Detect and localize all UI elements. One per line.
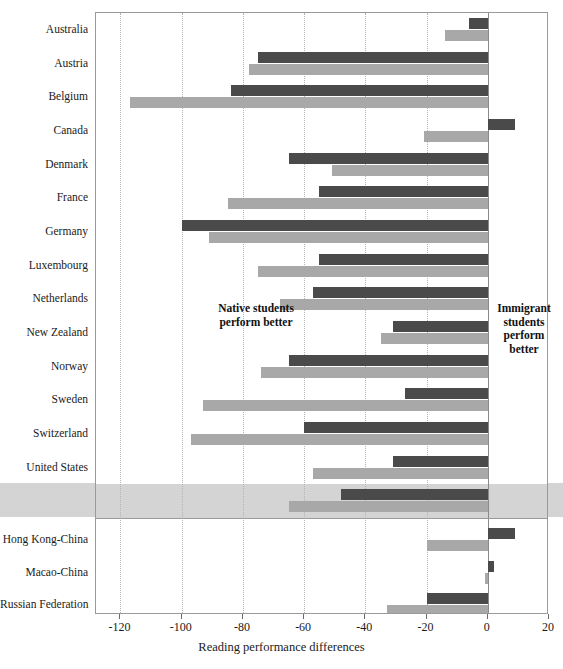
highlight-band-right bbox=[548, 483, 563, 517]
bar-canada-series-2 bbox=[424, 131, 488, 142]
x-tick--20 bbox=[426, 614, 427, 619]
x-tick--60 bbox=[303, 614, 304, 619]
bar-luxembourg-series-1 bbox=[319, 254, 487, 265]
category-label-netherlands: Netherlands bbox=[0, 292, 88, 304]
annotation-native-better: Native students perform better bbox=[186, 302, 326, 329]
x-axis-title: Reading performance differences bbox=[0, 640, 563, 655]
x-tick--80 bbox=[242, 614, 243, 619]
bar-oecd-average-series-1 bbox=[341, 489, 488, 500]
category-label-australia: Australia bbox=[0, 23, 88, 35]
bar-hong-kong-china-series-1 bbox=[488, 528, 516, 539]
category-label-united-states: United States bbox=[0, 461, 88, 473]
x-tick-label--40: -40 bbox=[334, 620, 394, 635]
bar-australia-series-1 bbox=[469, 18, 487, 29]
bar-germany-series-2 bbox=[209, 232, 488, 243]
reading-performance-chart: AustraliaAustriaBelgiumCanadaDenmarkFran… bbox=[0, 0, 563, 669]
gridline--120 bbox=[120, 13, 122, 613]
highlight-band-left bbox=[0, 483, 95, 517]
x-tick-20 bbox=[548, 614, 549, 619]
category-label-germany: Germany bbox=[0, 225, 88, 237]
bar-austria-series-2 bbox=[249, 64, 488, 75]
bar-united-states-series-2 bbox=[313, 468, 487, 479]
bar-denmark-series-2 bbox=[332, 165, 488, 176]
bar-russian-federation-series-1 bbox=[427, 593, 488, 604]
bar-austria-series-1 bbox=[258, 52, 488, 63]
bar-russian-federation-series-2 bbox=[387, 605, 488, 613]
bar-germany-series-1 bbox=[182, 220, 488, 231]
bar-luxembourg-series-2 bbox=[258, 266, 488, 277]
bar-new-zealand-series-2 bbox=[381, 333, 488, 344]
bar-hong-kong-china-series-2 bbox=[427, 540, 488, 551]
annotation-immigrant-line4: better bbox=[486, 343, 562, 357]
bar-netherlands-series-1 bbox=[313, 287, 487, 298]
category-label-macao-china: Macao-China bbox=[0, 566, 88, 578]
annotation-immigrant-line2: students bbox=[486, 316, 562, 330]
annotation-immigrant-line3: perform bbox=[486, 329, 562, 343]
x-tick--40 bbox=[364, 614, 365, 619]
partner-group-separator bbox=[96, 518, 547, 519]
annotation-native-line2: perform better bbox=[186, 316, 326, 330]
x-tick-label-0: 0 bbox=[457, 620, 517, 635]
bar-macao-china-series-1 bbox=[488, 561, 494, 572]
category-label-switzerland: Switzerland bbox=[0, 427, 88, 439]
bar-sweden-series-1 bbox=[405, 388, 488, 399]
bar-belgium-series-2 bbox=[130, 97, 488, 108]
bar-new-zealand-series-1 bbox=[393, 321, 488, 332]
category-label-france: France bbox=[0, 191, 88, 203]
bar-denmark-series-1 bbox=[289, 153, 488, 164]
bar-macao-china-series-2 bbox=[485, 573, 488, 584]
bar-norway-series-1 bbox=[289, 355, 488, 366]
category-label-norway: Norway bbox=[0, 360, 88, 372]
x-tick-label--100: -100 bbox=[151, 620, 211, 635]
x-tick--100 bbox=[181, 614, 182, 619]
annotation-native-line1: Native students bbox=[186, 302, 326, 316]
category-label-denmark: Denmark bbox=[0, 158, 88, 170]
category-label-new-zealand: New Zealand bbox=[0, 326, 88, 338]
category-label-austria: Austria bbox=[0, 57, 88, 69]
bar-sweden-series-2 bbox=[203, 400, 488, 411]
bar-united-states-series-1 bbox=[393, 456, 488, 467]
category-label-luxembourg: Luxembourg bbox=[0, 259, 88, 271]
category-label-russian-federation: Russian Federation bbox=[0, 598, 88, 610]
bar-switzerland-series-2 bbox=[191, 434, 488, 445]
bar-norway-series-2 bbox=[261, 367, 488, 378]
x-tick-label--80: -80 bbox=[212, 620, 272, 635]
category-label-sweden: Sweden bbox=[0, 393, 88, 405]
x-tick-0 bbox=[487, 614, 488, 619]
annotation-immigrant-line1: Immigrant bbox=[486, 302, 562, 316]
category-label-hong-kong-china: Hong Kong-China bbox=[0, 533, 88, 545]
x-tick-label--60: -60 bbox=[273, 620, 333, 635]
bar-switzerland-series-1 bbox=[304, 422, 488, 433]
bar-france-series-1 bbox=[319, 186, 487, 197]
bar-france-series-2 bbox=[228, 198, 488, 209]
category-label-belgium: Belgium bbox=[0, 90, 88, 102]
category-label-canada: Canada bbox=[0, 124, 88, 136]
bar-canada-series-1 bbox=[488, 119, 516, 130]
bar-oecd-average-series-2 bbox=[289, 501, 488, 512]
annotation-immigrant-better: Immigrant students perform better bbox=[486, 302, 562, 356]
x-tick--120 bbox=[119, 614, 120, 619]
x-tick-label--120: -120 bbox=[89, 620, 149, 635]
bar-belgium-series-1 bbox=[231, 85, 488, 96]
x-tick-label-20: 20 bbox=[518, 620, 563, 635]
x-tick-label--20: -20 bbox=[396, 620, 456, 635]
bar-australia-series-2 bbox=[445, 30, 488, 41]
